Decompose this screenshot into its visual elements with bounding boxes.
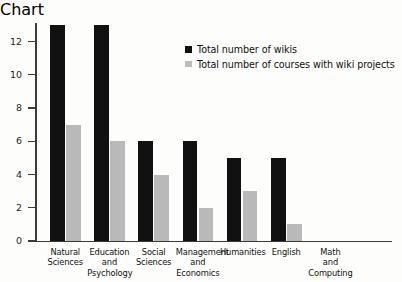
x-axis-category-label: EducationandPsychology bbox=[87, 247, 131, 278]
bar-1-4 bbox=[243, 191, 258, 241]
chart-legend: Total number of wikis Total number of co… bbox=[185, 44, 395, 73]
bar-1-2 bbox=[154, 175, 169, 241]
x-axis-category-label: Humanities bbox=[220, 247, 264, 257]
bar-0-3 bbox=[183, 141, 198, 241]
x-axis-category-label: SocialSciences bbox=[132, 247, 176, 268]
legend-item: Total number of courses with wiki projec… bbox=[185, 59, 395, 70]
x-axis-category-label: MathandComputing bbox=[308, 247, 352, 278]
bar-1-3 bbox=[199, 208, 214, 241]
bar-1-0 bbox=[66, 125, 81, 241]
x-axis-category-label: NaturalSciences bbox=[43, 247, 87, 268]
legend-swatch-icon bbox=[185, 61, 192, 68]
bar-1-5 bbox=[287, 224, 302, 241]
bar-1-1 bbox=[110, 141, 125, 241]
x-axis-category-label: English bbox=[264, 247, 308, 257]
legend-item: Total number of wikis bbox=[185, 44, 395, 55]
x-axis-category-label: ManagementandEconomics bbox=[176, 247, 220, 278]
bar-0-5 bbox=[271, 158, 286, 241]
legend-swatch-icon bbox=[185, 46, 192, 53]
bar-chart: 024681012 NaturalSciencesEducationandPsy… bbox=[0, 19, 402, 282]
legend-item-label: Total number of courses with wiki projec… bbox=[197, 59, 395, 70]
legend-item-label: Total number of wikis bbox=[197, 44, 297, 55]
bar-0-2 bbox=[138, 141, 153, 241]
bar-0-1 bbox=[94, 25, 109, 241]
bar-0-0 bbox=[50, 25, 65, 241]
bar-0-4 bbox=[227, 158, 242, 241]
